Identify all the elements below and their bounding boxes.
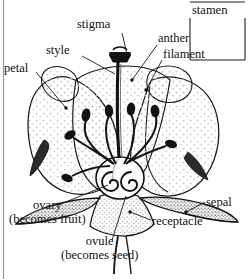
stigma: [109, 47, 131, 62]
label-sepal: sepal: [206, 196, 232, 210]
label-ovary: ovary (becomes fruit): [9, 199, 86, 226]
label-stamen: stamen: [192, 4, 227, 18]
label-ovule-term: ovule: [61, 235, 138, 249]
leader-dot-petal: [64, 106, 67, 109]
label-petal: petal: [4, 62, 28, 76]
leader-stigma: [122, 33, 127, 54]
label-ovary-note: (becomes fruit): [9, 213, 86, 227]
label-style: style: [46, 44, 70, 58]
label-ovary-term: ovary: [9, 199, 86, 213]
label-stigma: stigma: [77, 18, 110, 32]
label-anther: anther: [158, 32, 189, 46]
leader-dot-receptacle: [128, 210, 131, 213]
label-ovule-note: (becomes seed): [61, 249, 138, 263]
leader-dot-filament: [144, 88, 147, 91]
label-filament: filament: [163, 48, 205, 62]
label-receptacle: receptacle: [152, 215, 203, 229]
label-ovule: ovule (becomes seed): [61, 235, 138, 262]
leader-dot-anther: [130, 78, 133, 81]
